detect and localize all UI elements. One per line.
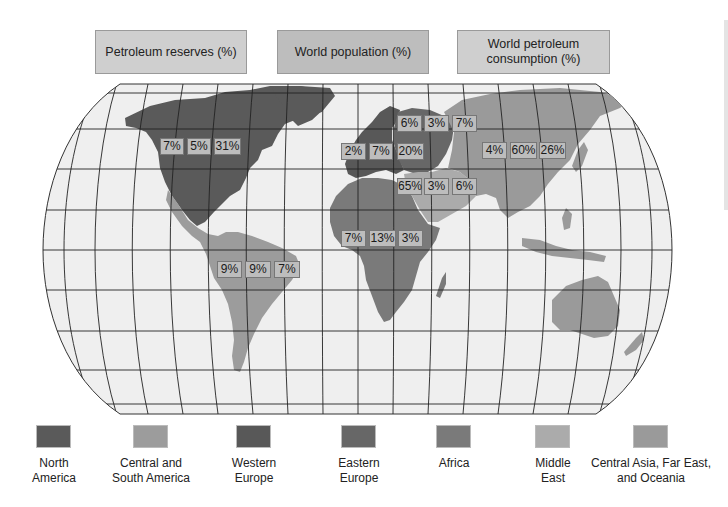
label-eastern-europe-consumption: 7% xyxy=(452,115,477,132)
label-middle-east-population: 3% xyxy=(424,178,449,195)
label-north-america-consumption: 31% xyxy=(214,138,241,155)
label-western-europe-population: 7% xyxy=(369,143,393,160)
swatch-central-south-america xyxy=(133,425,168,448)
legend-label-central-south-america: Central andSouth America xyxy=(91,456,211,486)
label-africa-reserves: 7% xyxy=(341,230,366,247)
label-north-america-reserves: 7% xyxy=(160,138,184,155)
label-asia-consumption: 26% xyxy=(539,142,566,159)
legend-label-western-europe: WesternEurope xyxy=(194,456,314,486)
label-asia-reserves: 4% xyxy=(482,142,507,159)
swatch-eastern-europe xyxy=(341,425,376,448)
label-csa-population: 9% xyxy=(245,261,271,278)
label-middle-east-reserves: 65% xyxy=(397,178,422,195)
label-western-europe-consumption: 20% xyxy=(397,143,424,160)
label-eastern-europe-population: 3% xyxy=(424,115,449,132)
swatch-western-europe xyxy=(236,425,271,448)
label-asia-population: 60% xyxy=(510,142,537,159)
legend-label-asia-oceania: Central Asia, Far East,and Oceania xyxy=(581,456,721,486)
edge-strip xyxy=(724,20,728,210)
label-africa-population: 13% xyxy=(369,230,396,247)
swatch-asia-oceania xyxy=(633,425,668,448)
label-north-america-population: 5% xyxy=(187,138,211,155)
swatch-north-america xyxy=(36,425,71,448)
label-eastern-europe-reserves: 6% xyxy=(397,115,422,132)
label-western-europe-reserves: 2% xyxy=(341,143,366,160)
swatch-africa xyxy=(436,425,471,448)
label-middle-east-consumption: 6% xyxy=(452,178,477,195)
label-csa-reserves: 9% xyxy=(217,261,242,278)
swatch-middle-east xyxy=(535,425,570,448)
label-africa-consumption: 3% xyxy=(398,230,423,247)
label-csa-consumption: 7% xyxy=(274,261,300,278)
